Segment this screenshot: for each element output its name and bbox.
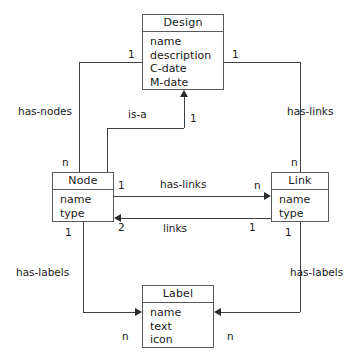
cardinality-node-bottom: 1 bbox=[65, 226, 72, 238]
cardinality-node-right-top: 1 bbox=[118, 179, 125, 191]
er-diagram-canvas: Design name description C-date M-date No… bbox=[0, 0, 360, 363]
edge-is-a-segment-horizontal bbox=[107, 128, 184, 129]
entity-node-title: Node bbox=[53, 173, 113, 190]
entity-label-title: Label bbox=[143, 286, 213, 303]
cardinality-node-top: n bbox=[62, 156, 69, 168]
attribute-item: name bbox=[150, 35, 223, 49]
attribute-item: text bbox=[150, 320, 213, 334]
edge-label-has-links-node: has-links bbox=[160, 178, 206, 190]
edge-label-links: links bbox=[163, 222, 187, 234]
edge-label-is-a: is-a bbox=[128, 108, 147, 120]
cardinality-label-left: n bbox=[122, 330, 129, 342]
attribute-item: type bbox=[60, 207, 113, 221]
entity-design-attributes: name description C-date M-date bbox=[143, 32, 223, 93]
edge-has-labels-link-arrowhead bbox=[214, 308, 221, 316]
edge-links-line bbox=[121, 218, 271, 219]
cardinality-link-left-top: n bbox=[254, 179, 261, 191]
edge-is-a-segment-up-from-node bbox=[107, 128, 108, 172]
edge-is-a-segment-up-to-design bbox=[184, 97, 185, 128]
cardinality-design-left: 1 bbox=[128, 48, 135, 60]
edge-has-nodes-segment-down bbox=[79, 62, 80, 172]
edge-has-links-design-segment-down bbox=[300, 62, 301, 172]
attribute-item: name bbox=[150, 306, 213, 320]
edge-has-labels-node-segment-down bbox=[83, 222, 84, 312]
attribute-item: description bbox=[150, 49, 223, 63]
cardinality-link-bottom: 1 bbox=[285, 226, 292, 238]
cardinality-design-right: 1 bbox=[232, 48, 239, 60]
edge-has-links-design-segment-top bbox=[224, 62, 300, 63]
cardinality-link-left-bottom: 1 bbox=[249, 221, 256, 233]
edge-has-nodes-segment-top bbox=[79, 62, 142, 63]
edge-has-labels-node-arrowhead bbox=[135, 308, 142, 316]
attribute-item: icon bbox=[150, 333, 213, 347]
attribute-item: name bbox=[60, 193, 113, 207]
cardinality-node-right-bottom: 2 bbox=[118, 221, 125, 233]
entity-design-title: Design bbox=[143, 15, 223, 32]
entity-link-attributes: name type bbox=[272, 190, 328, 224]
cardinality-design-bottom-isa: 1 bbox=[190, 112, 197, 124]
entity-label[interactable]: Label name text icon bbox=[142, 285, 214, 348]
edge-label-has-links-design: has-links bbox=[287, 105, 333, 117]
entity-node-attributes: name type bbox=[53, 190, 113, 224]
edge-has-labels-node-segment-right bbox=[83, 312, 135, 313]
cardinality-label-right: n bbox=[227, 330, 234, 342]
attribute-item: M-date bbox=[150, 76, 223, 90]
attribute-item: type bbox=[279, 207, 328, 221]
entity-label-attributes: name text icon bbox=[143, 303, 213, 351]
edge-label-has-labels-link: has-labels bbox=[290, 266, 343, 278]
entity-link-title: Link bbox=[272, 173, 328, 190]
edge-label-has-labels-node: has-labels bbox=[16, 266, 69, 278]
attribute-item: name bbox=[279, 193, 328, 207]
edge-label-has-nodes: has-nodes bbox=[18, 105, 72, 117]
cardinality-link-top: n bbox=[291, 156, 298, 168]
entity-node[interactable]: Node name type bbox=[52, 172, 114, 222]
edge-has-labels-link-segment-left bbox=[221, 312, 300, 313]
entity-design[interactable]: Design name description C-date M-date bbox=[142, 14, 224, 90]
entity-link[interactable]: Link name type bbox=[271, 172, 329, 222]
edge-has-links-node-arrowhead bbox=[264, 192, 271, 200]
edge-has-links-node-line bbox=[114, 196, 264, 197]
attribute-item: C-date bbox=[150, 62, 223, 76]
